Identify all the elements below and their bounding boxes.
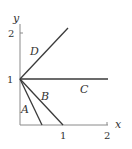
line-a	[20, 79, 42, 125]
x-tick-label-1: 1	[60, 130, 66, 141]
line-c-label: C	[80, 83, 89, 96]
line-b-label: B	[40, 90, 49, 103]
y-tick-label-2: 2	[8, 28, 14, 39]
x-tick-label-2: 2	[104, 130, 110, 141]
line-a-label: A	[20, 103, 29, 116]
y-tick-label-1: 1	[7, 74, 13, 85]
diagram-canvas: y x 2 1 1 2 A B C D	[0, 0, 132, 149]
line-d-label: D	[29, 45, 39, 58]
y-axis-label: y	[12, 12, 20, 25]
x-axis-label: x	[115, 118, 122, 131]
line-d	[20, 28, 68, 79]
